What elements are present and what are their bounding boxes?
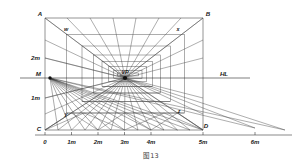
label-m: M bbox=[36, 70, 42, 77]
label-y: y bbox=[64, 111, 69, 117]
grid-lines bbox=[20, 18, 292, 135]
label-b: B bbox=[206, 10, 211, 17]
axis-tick-3m: 3m bbox=[120, 139, 129, 145]
figure-caption: 图13 bbox=[143, 152, 158, 160]
label-hl: HL bbox=[220, 70, 228, 77]
label-d: D bbox=[204, 122, 209, 129]
vp-ground-rays bbox=[58, 78, 190, 130]
label-a: A bbox=[37, 10, 43, 17]
perspective-grid-diagram: A B C D M VP HL w x y z 2m 1m 0 1m 2m 3m… bbox=[0, 0, 303, 161]
measurement-axis bbox=[35, 132, 292, 135]
figure-container: A B C D M VP HL w x y z 2m 1m 0 1m 2m 3m… bbox=[0, 0, 303, 161]
label-x: x bbox=[176, 26, 181, 32]
label-height-2m: 2m bbox=[30, 54, 40, 61]
axis-tick-0: 0 bbox=[43, 139, 47, 145]
label-height-1m: 1m bbox=[31, 94, 40, 101]
label-w: w bbox=[64, 26, 69, 32]
axis-tick-5m: 5m bbox=[199, 139, 208, 145]
axis-tick-1m: 1m bbox=[67, 139, 76, 145]
label-vp: VP bbox=[121, 69, 129, 75]
label-c: C bbox=[37, 125, 42, 132]
vanishing-point-marker bbox=[123, 76, 127, 80]
label-z: z bbox=[177, 108, 181, 114]
measuring-point-fan bbox=[50, 78, 203, 130]
measuring-point-marker bbox=[48, 76, 51, 79]
axis-tick-6m: 6m bbox=[251, 139, 260, 145]
axis-tick-4m: 4m bbox=[146, 139, 156, 145]
axis-tick-2m: 2m bbox=[93, 139, 103, 145]
